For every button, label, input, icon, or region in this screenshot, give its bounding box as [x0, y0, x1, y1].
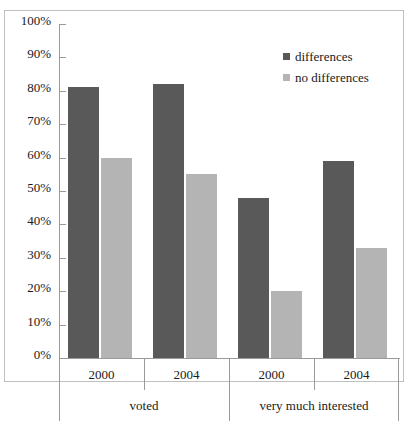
y-axis-tick-label: 20%	[27, 281, 51, 294]
bar-no-differences-2004-3	[356, 248, 387, 358]
bar-differences-2004-3	[323, 161, 354, 358]
y-axis-tick-label: 50%	[27, 181, 51, 194]
bar-differences-2000-0	[68, 87, 99, 358]
x-axis-year-label: 2004	[314, 359, 399, 390]
bar-no-differences-2000-2	[271, 291, 302, 358]
y-axis-tick-label: 70%	[27, 114, 51, 127]
x-axis-year-label: 2000	[59, 359, 144, 390]
bar-group	[145, 24, 230, 358]
x-axis-minor-separator	[314, 359, 315, 390]
x-axis-year-label: 2000	[229, 359, 314, 390]
y-axis-tick-label: 90%	[27, 47, 51, 60]
bar-differences-2004-1	[153, 84, 184, 358]
legend-label: no differences	[295, 71, 369, 84]
x-axis-year-label: 2004	[144, 359, 229, 390]
bar-no-differences-2004-1	[186, 174, 217, 358]
bar-group	[60, 24, 145, 358]
bar-differences-2000-2	[238, 198, 269, 358]
legend: differencesno differences	[283, 47, 393, 89]
y-axis-tick-label: 0%	[34, 348, 51, 361]
x-axis-major-separator	[59, 359, 60, 421]
legend-item: differences	[283, 47, 393, 66]
y-axis-tick-label: 80%	[27, 81, 51, 94]
legend-swatch-icon	[283, 74, 290, 81]
bar-chart: 100%90%80%70%60%50%40%30%20%10%0% 200020…	[0, 0, 409, 425]
bar-no-differences-2000-0	[101, 158, 132, 358]
legend-swatch-icon	[283, 53, 290, 60]
legend-label: differences	[295, 50, 353, 63]
x-axis-group-label: very much interested	[229, 390, 399, 421]
y-axis-tick-label: 40%	[27, 214, 51, 227]
y-axis-tick-label: 30%	[27, 248, 51, 261]
x-axis-minor-separator	[144, 359, 145, 390]
y-axis-tick-label: 100%	[21, 14, 51, 27]
x-axis-major-separator	[398, 359, 399, 421]
y-axis-tick-label: 10%	[27, 315, 51, 328]
x-axis-group-label: voted	[59, 390, 229, 421]
legend-item: no differences	[283, 68, 393, 87]
x-axis-major-separator	[229, 359, 230, 421]
y-axis-tick-label: 60%	[27, 148, 51, 161]
x-axis-category-labels: 2000200420002004votedvery much intereste…	[59, 359, 400, 421]
